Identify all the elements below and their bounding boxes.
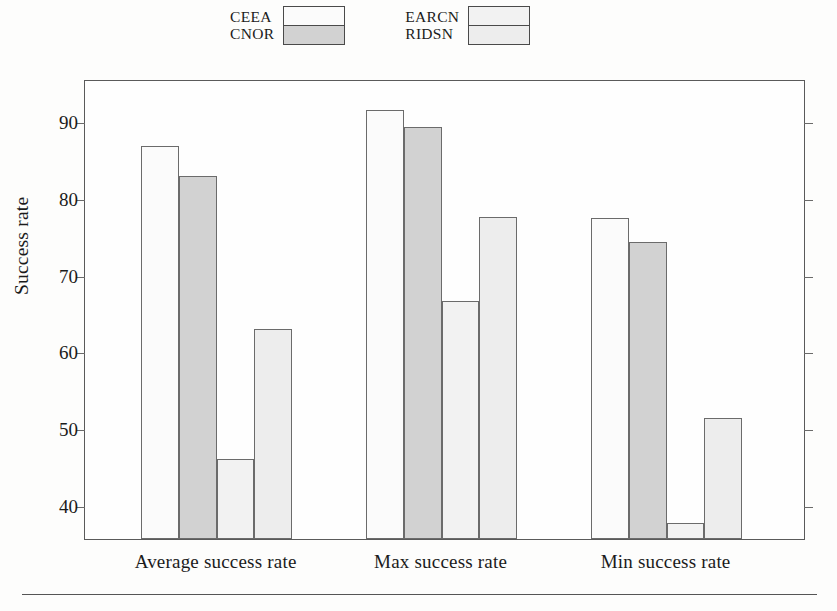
y-tick-mark-right (804, 507, 813, 508)
bar-ridsn-2 (704, 418, 742, 539)
legend-swatch-ridsn (469, 26, 529, 45)
y-tick-label: 60 (59, 342, 78, 364)
bar-cnor-2 (629, 242, 667, 539)
legend-label-cnor: CNOR (230, 26, 274, 42)
legend-label-ridsn: RIDSN (405, 26, 459, 42)
legend-swatch-group-2 (468, 6, 530, 45)
y-tick-label: 40 (59, 496, 78, 518)
legend-label-ceea: CEEA (230, 9, 274, 25)
y-tick-mark-right (804, 123, 813, 124)
y-tick-mark-right (804, 430, 813, 431)
bar-earcn-2 (667, 523, 705, 539)
x-axis-label-0: Average success rate (135, 551, 297, 573)
y-axis-title: Success rate (11, 197, 33, 295)
bar-cnor-0 (179, 176, 217, 539)
bar-ceea-1 (366, 110, 404, 539)
bar-ceea-2 (591, 218, 629, 539)
y-tick-mark-right (804, 200, 813, 201)
legend-labels-1: CEEA CNOR (230, 9, 274, 42)
legend-pair-2: EARCN RIDSN (405, 6, 530, 45)
bars-container (85, 81, 804, 539)
bar-ridsn-0 (254, 329, 292, 539)
bar-cnor-1 (404, 127, 442, 539)
legend-pair-1: CEEA CNOR (230, 6, 345, 45)
x-axis-label-1: Max success rate (374, 551, 507, 573)
bar-chart-figure: CEEA CNOR EARCN RIDSN Success rate 40506… (0, 0, 837, 611)
legend-label-earcn: EARCN (405, 9, 459, 25)
plot-area: 405060708090 (84, 80, 805, 540)
legend-swatch-cnor (284, 26, 344, 45)
x-axis-label-2: Min success rate (601, 551, 731, 573)
legend-labels-2: EARCN RIDSN (405, 9, 459, 42)
bar-earcn-0 (217, 459, 255, 539)
y-tick-label: 80 (59, 189, 78, 211)
y-tick-label: 70 (59, 266, 78, 288)
y-tick-label: 50 (59, 419, 78, 441)
bar-ceea-0 (141, 146, 179, 539)
y-tick-mark-right (804, 277, 813, 278)
legend-swatch-ceea (284, 7, 344, 26)
bar-ridsn-1 (479, 217, 517, 539)
bar-earcn-1 (442, 301, 480, 539)
y-tick-label: 90 (59, 112, 78, 134)
legend-swatch-group-1 (283, 6, 345, 45)
y-tick-mark-right (804, 353, 813, 354)
chart-legend: CEEA CNOR EARCN RIDSN (230, 6, 530, 45)
legend-swatch-earcn (469, 7, 529, 26)
footer-rule (22, 594, 817, 595)
